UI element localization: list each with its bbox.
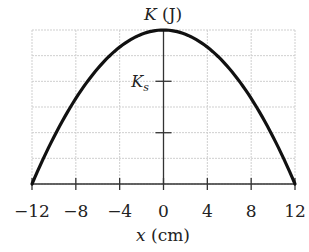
kinetic-energy-chart: −12−8−404812 K (J) Ks x (cm) — [0, 0, 309, 252]
ks-label: Ks — [130, 72, 149, 94]
x-tick-label: 0 — [158, 201, 169, 221]
x-tick-label: −8 — [63, 201, 88, 221]
y-axis-title: K (J) — [143, 4, 182, 24]
x-tick-labels: −12−8−404812 — [14, 201, 306, 221]
x-tick-label: 12 — [284, 201, 306, 221]
x-tick-label: 4 — [202, 201, 213, 221]
x-tick-label: −4 — [107, 201, 132, 221]
x-tick-label: −12 — [14, 201, 50, 221]
axes — [32, 30, 295, 190]
x-tick-label: 8 — [246, 201, 257, 221]
x-axis-title: x (cm) — [136, 225, 190, 245]
